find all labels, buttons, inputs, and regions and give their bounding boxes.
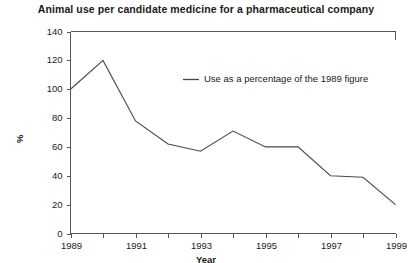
y-tick-marks [67,33,71,235]
x-axis-label: Year [0,254,412,263]
legend-entry-label: Use as a percentage of the 1989 figure [204,73,368,84]
y-tick-label: 80 [23,112,63,123]
y-tick-label: 0 [23,228,63,239]
chart-container: Animal use per candidate medicine for a … [0,0,412,263]
y-tick-label: 140 [23,26,63,37]
x-tick-marks [72,234,397,238]
y-tick-label: 100 [23,83,63,94]
axis-frame [71,32,396,234]
x-tick-label: 1991 [112,240,162,251]
x-tick-label: 1997 [307,240,357,251]
x-tick-label: 1993 [177,240,227,251]
y-tick-label: 20 [23,199,63,210]
y-tick-label: 60 [23,141,63,152]
plot-area [0,0,412,263]
y-tick-label: 40 [23,170,63,181]
x-tick-label: 1995 [242,240,292,251]
y-tick-label: 120 [23,54,63,65]
axes-group [71,32,396,234]
y-axis-label: % [14,134,25,142]
x-tick-label: 1999 [372,240,412,251]
x-tick-label: 1989 [47,240,97,251]
